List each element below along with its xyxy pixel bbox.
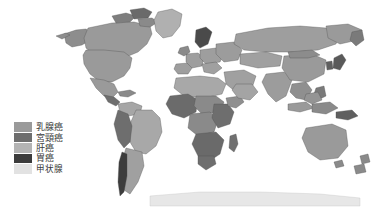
legend-item-liver-cancer[interactable]: 肝癌 bbox=[14, 143, 78, 153]
legend-label-liver-cancer: 肝癌 bbox=[36, 143, 54, 153]
legend-swatch-cervical-cancer bbox=[14, 133, 32, 143]
legend-item-stomach-cancer[interactable]: 胃癌 bbox=[14, 153, 78, 163]
legend-label-breast-cancer: 乳腺癌 bbox=[36, 122, 63, 132]
legend-swatch-liver-cancer bbox=[14, 143, 32, 153]
region-new-zealand-south bbox=[354, 164, 366, 174]
legend-swatch-stomach-cancer bbox=[14, 154, 32, 164]
map-legend: 乳腺癌 宮頸癌 肝癌 胃癌 甲状腺 bbox=[14, 122, 78, 174]
world-cancer-map-figure: 乳腺癌 宮頸癌 肝癌 胃癌 甲状腺 bbox=[0, 0, 386, 216]
legend-label-cervical-cancer: 宮頸癌 bbox=[36, 133, 63, 143]
legend-swatch-thyroid-cancer bbox=[14, 164, 32, 174]
legend-item-cervical-cancer[interactable]: 宮頸癌 bbox=[14, 132, 78, 142]
region-korea bbox=[326, 61, 333, 70]
legend-label-thyroid-cancer: 甲状腺 bbox=[36, 164, 63, 174]
legend-label-stomach-cancer: 胃癌 bbox=[36, 153, 54, 163]
legend-item-thyroid-cancer[interactable]: 甲状腺 bbox=[14, 164, 78, 174]
region-new-zealand-north bbox=[360, 154, 370, 164]
world-map bbox=[0, 0, 386, 216]
legend-swatch-breast-cancer bbox=[14, 122, 32, 132]
legend-item-breast-cancer[interactable]: 乳腺癌 bbox=[14, 122, 78, 132]
